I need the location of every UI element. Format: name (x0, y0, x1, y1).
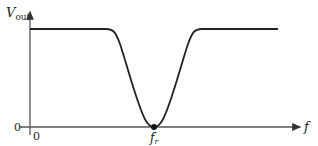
notch-filter-diagram: Vout 0 0 fr f (0, 0, 318, 146)
notch-point (151, 124, 157, 130)
x-axis-label: f (303, 119, 311, 134)
y-axis-label: Vout (6, 5, 31, 22)
origin-x-label: 0 (33, 130, 40, 143)
notch-frequency-label: fr (149, 131, 159, 146)
origin-y-label: 0 (14, 121, 21, 134)
response-curve (30, 29, 278, 127)
